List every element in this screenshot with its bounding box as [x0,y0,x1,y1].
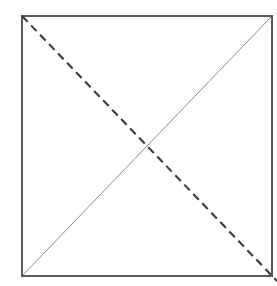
figure-background [0,0,277,286]
diagram-canvas [0,0,277,286]
figure-root: Square with two crossing diagonals [0,0,277,286]
